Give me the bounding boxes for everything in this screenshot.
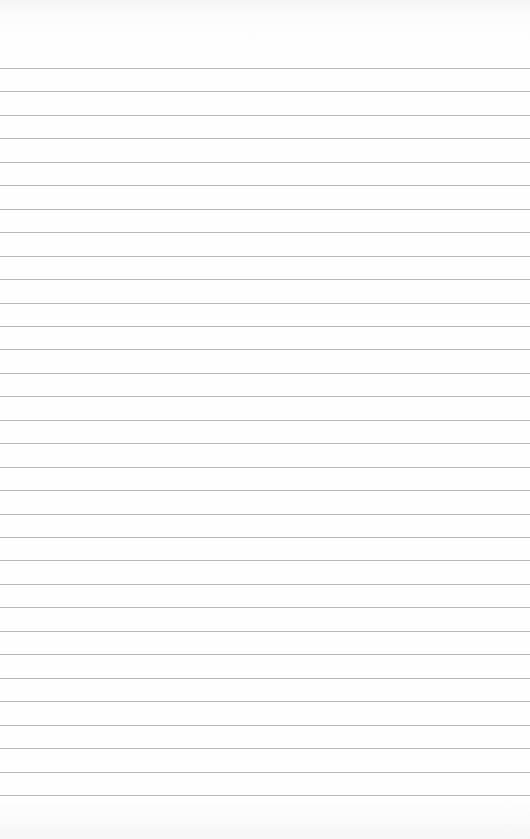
ruled-line bbox=[0, 303, 530, 304]
ruled-line bbox=[0, 209, 530, 210]
ruled-line bbox=[0, 420, 530, 421]
ruled-paper-page bbox=[0, 0, 530, 839]
ruled-line bbox=[0, 725, 530, 726]
ruled-line bbox=[0, 631, 530, 632]
ruled-line bbox=[0, 373, 530, 374]
ruled-line bbox=[0, 654, 530, 655]
ruled-line bbox=[0, 68, 530, 69]
ruled-line bbox=[0, 490, 530, 491]
ruled-line bbox=[0, 584, 530, 585]
ruled-line bbox=[0, 514, 530, 515]
ruled-line bbox=[0, 772, 530, 773]
ruled-line bbox=[0, 232, 530, 233]
ruled-line bbox=[0, 115, 530, 116]
ruled-line bbox=[0, 560, 530, 561]
ruled-line bbox=[0, 396, 530, 397]
ruled-line bbox=[0, 701, 530, 702]
ruled-line bbox=[0, 537, 530, 538]
ruled-line bbox=[0, 256, 530, 257]
ruled-line bbox=[0, 467, 530, 468]
ruled-line bbox=[0, 748, 530, 749]
ruled-line bbox=[0, 279, 530, 280]
ruled-line bbox=[0, 326, 530, 327]
ruled-line bbox=[0, 162, 530, 163]
ruled-line bbox=[0, 607, 530, 608]
ruled-line bbox=[0, 795, 530, 796]
ruled-line bbox=[0, 678, 530, 679]
ruled-line bbox=[0, 443, 530, 444]
ruled-line bbox=[0, 349, 530, 350]
ruled-line bbox=[0, 185, 530, 186]
ruled-line bbox=[0, 91, 530, 92]
ruled-line bbox=[0, 138, 530, 139]
